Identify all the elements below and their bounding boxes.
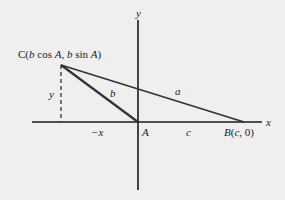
neg-x-label: −x bbox=[91, 126, 103, 138]
height-label: y bbox=[48, 88, 54, 100]
side-c-label: c bbox=[186, 126, 191, 138]
y-axis-label: y bbox=[135, 7, 141, 19]
side-a bbox=[61, 65, 244, 122]
side-b bbox=[61, 65, 138, 122]
law-of-cosines-diagram: y x C(b cos A, b sin A) y b a −x A c B(c… bbox=[0, 0, 285, 200]
point-c-label: C(b cos A, b sin A) bbox=[18, 48, 101, 61]
side-b-label: b bbox=[110, 87, 116, 99]
point-a-label: A bbox=[141, 126, 149, 138]
side-a-label: a bbox=[175, 85, 181, 97]
x-axis-label: x bbox=[265, 116, 271, 128]
point-b-label: B(c, 0) bbox=[224, 126, 254, 139]
